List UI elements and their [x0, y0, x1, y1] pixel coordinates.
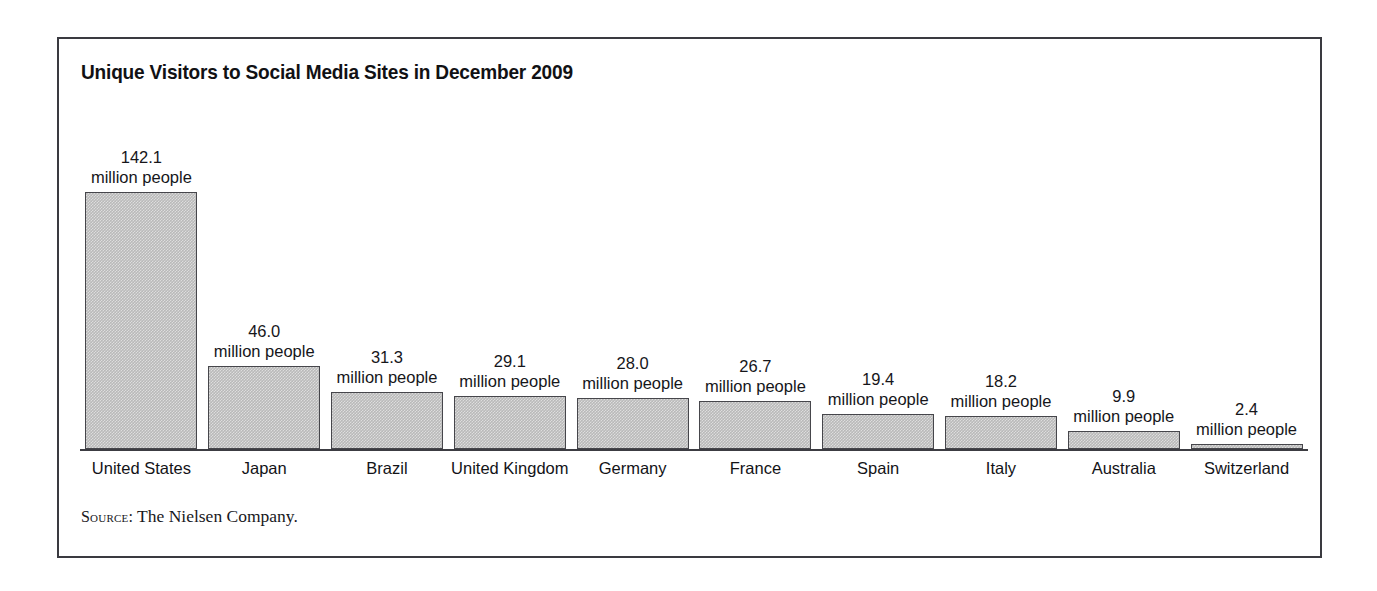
bar-slot: 142.1million people	[80, 99, 203, 449]
bar-rect	[1068, 431, 1180, 449]
bar-value-label: 26.7million people	[705, 356, 806, 396]
bar-slot: 9.9million people	[1062, 99, 1185, 449]
bar-rect	[577, 398, 689, 449]
category-label: Germany	[571, 459, 694, 478]
bar-value-unit: million people	[91, 167, 192, 187]
category-label: Australia	[1062, 459, 1185, 478]
bar-value-number: 26.7	[705, 356, 806, 376]
x-axis-line	[80, 449, 1308, 452]
plot-area: 142.1million people46.0million people31.…	[80, 99, 1308, 451]
bar-value-label: 46.0million people	[214, 321, 315, 361]
bar-value-label: 31.3million people	[337, 347, 438, 387]
bar-value-unit: million people	[459, 371, 560, 391]
bar-slot: 18.2million people	[940, 99, 1063, 449]
bar-slot: 26.7million people	[694, 99, 817, 449]
source-label: Source:	[81, 508, 133, 525]
bar-value-number: 142.1	[91, 147, 192, 167]
bar-value-unit: million people	[1196, 419, 1297, 439]
bar-rect	[85, 192, 197, 449]
bar-slot: 28.0million people	[571, 99, 694, 449]
bar-value-label: 18.2million people	[951, 371, 1052, 411]
bar-rect	[208, 366, 320, 449]
category-label: United States	[80, 459, 203, 478]
category-label: Italy	[940, 459, 1063, 478]
category-label: Japan	[203, 459, 326, 478]
bar-rect	[822, 414, 934, 449]
category-label: Switzerland	[1185, 459, 1308, 478]
bar-value-number: 18.2	[951, 371, 1052, 391]
source-text: The Nielsen Company.	[137, 506, 298, 526]
bar-value-unit: million people	[828, 389, 929, 409]
bar-rect	[454, 396, 566, 449]
bar-value-number: 19.4	[828, 369, 929, 389]
bar-value-number: 9.9	[1073, 386, 1174, 406]
bar-slot: 29.1million people	[448, 99, 571, 449]
bar-value-number: 2.4	[1196, 399, 1297, 419]
category-label: France	[694, 459, 817, 478]
bar-value-label: 2.4million people	[1196, 399, 1297, 439]
bar-slot: 2.4million people	[1185, 99, 1308, 449]
bar-value-unit: million people	[337, 367, 438, 387]
bar-value-number: 29.1	[459, 351, 560, 371]
category-label: Brazil	[326, 459, 449, 478]
bar-value-number: 28.0	[582, 353, 683, 373]
bar-slot: 31.3million people	[326, 99, 449, 449]
bar-value-label: 29.1million people	[459, 351, 560, 391]
figure-frame: Unique Visitors to Social Media Sites in…	[57, 37, 1322, 558]
bar-value-unit: million people	[1073, 406, 1174, 426]
bar-slot: 19.4million people	[817, 99, 940, 449]
bar-value-unit: million people	[582, 373, 683, 393]
category-label: Spain	[817, 459, 940, 478]
bar-slot: 46.0million people	[203, 99, 326, 449]
bars-container: 142.1million people46.0million people31.…	[80, 99, 1308, 449]
bar-value-label: 142.1million people	[91, 147, 192, 187]
bar-value-unit: million people	[705, 376, 806, 396]
bar-rect	[945, 416, 1057, 449]
source-note: Source: The Nielsen Company.	[81, 506, 298, 527]
bar-value-unit: million people	[951, 391, 1052, 411]
bar-value-label: 9.9million people	[1073, 386, 1174, 426]
bar-value-number: 31.3	[337, 347, 438, 367]
bar-value-label: 19.4million people	[828, 369, 929, 409]
bar-value-number: 46.0	[214, 321, 315, 341]
bar-value-unit: million people	[214, 341, 315, 361]
bar-value-label: 28.0million people	[582, 353, 683, 393]
category-axis-labels: United StatesJapanBrazilUnited KingdomGe…	[80, 459, 1308, 478]
category-label: United Kingdom	[448, 459, 571, 478]
bar-rect	[331, 392, 443, 449]
bar-rect	[699, 401, 811, 449]
chart-title: Unique Visitors to Social Media Sites in…	[81, 60, 573, 84]
